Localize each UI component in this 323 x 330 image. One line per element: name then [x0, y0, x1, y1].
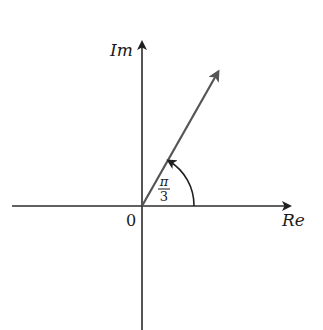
vector-arrow — [142, 72, 218, 206]
angle-numerator: π — [159, 174, 169, 189]
complex-plane-diagram: Im Re 0 π 3 — [0, 0, 323, 330]
angle-label: π 3 — [158, 174, 170, 204]
real-axis-label: Re — [281, 210, 305, 230]
angle-arc — [169, 161, 194, 206]
angle-denominator: 3 — [160, 189, 168, 204]
origin-label: 0 — [126, 211, 136, 230]
imaginary-axis-label: Im — [109, 40, 133, 60]
